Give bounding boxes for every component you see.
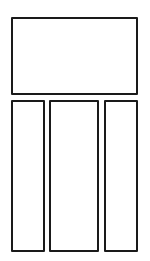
right-column-rectangle	[104, 100, 138, 252]
top-panel-rectangle	[11, 17, 138, 95]
left-column-rectangle	[11, 100, 45, 252]
center-column-rectangle	[49, 100, 99, 252]
